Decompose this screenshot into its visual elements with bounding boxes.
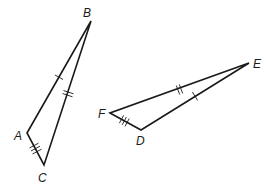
vertex-label-f: F bbox=[98, 107, 106, 121]
vertex-label-b: B bbox=[83, 6, 91, 20]
side-fe-tick-2 bbox=[179, 84, 182, 93]
triangle-fde bbox=[110, 63, 249, 130]
vertex-label-e: E bbox=[253, 57, 262, 71]
vertex-label-a: A bbox=[13, 129, 22, 143]
triangle-fde-outline bbox=[110, 63, 249, 130]
congruent-triangles-diagram: A B C F D E bbox=[0, 0, 272, 191]
triangle-abc bbox=[27, 21, 91, 165]
vertex-label-c: C bbox=[38, 171, 47, 185]
side-fe-tick-1 bbox=[176, 86, 179, 95]
vertex-labels: A B C F D E bbox=[13, 6, 262, 185]
vertex-label-d: D bbox=[136, 134, 145, 148]
triangle-abc-outline bbox=[27, 21, 91, 165]
